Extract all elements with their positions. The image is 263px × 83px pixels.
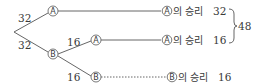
weight-b-a: 16	[67, 36, 81, 48]
node-b-sub: B	[91, 72, 101, 82]
svg-text:의 승리: 의 승리	[178, 72, 208, 83]
svg-text:A: A	[164, 36, 170, 45]
svg-text:B: B	[93, 73, 99, 82]
svg-text:의 승리: 의 승리	[173, 35, 203, 46]
outcome-label-b-16: B 의 승리 16	[167, 71, 231, 83]
svg-text:32: 32	[213, 5, 226, 17]
svg-text:A: A	[93, 36, 99, 45]
svg-text:A: A	[164, 7, 170, 16]
svg-text:B: B	[50, 50, 56, 59]
weight-b-b: 16	[67, 71, 81, 83]
svg-text:16: 16	[213, 34, 227, 46]
weight-root-b: 32	[18, 39, 31, 51]
svg-text:A: A	[50, 7, 56, 16]
node-b-mid: B	[48, 49, 58, 59]
svg-text:B: B	[169, 73, 175, 82]
outcome-label-a-16: A 의 승리 16	[162, 34, 226, 46]
svg-text:의 승리: 의 승리	[173, 6, 203, 17]
right-brace	[229, 9, 237, 43]
node-a-top: A	[48, 6, 58, 16]
node-a-sub: A	[91, 35, 101, 45]
weight-root-a: 32	[18, 12, 31, 24]
probability-tree-diagram: A B A B 32 32 16 16 A 의 승리 32 A 의 승리 16 …	[0, 0, 263, 83]
svg-text:16: 16	[218, 71, 232, 83]
outcome-label-a-32: A 의 승리 32	[162, 5, 226, 17]
brace-total: 48	[238, 20, 251, 32]
